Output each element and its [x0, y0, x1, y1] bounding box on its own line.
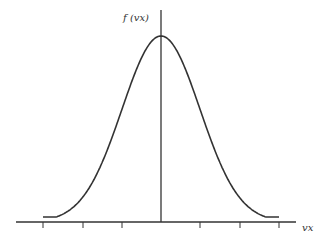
x-axis-label: vx	[302, 222, 313, 233]
plot-area	[0, 0, 329, 242]
y-axis-label: f (vx)	[123, 12, 149, 23]
x-ticks	[43, 222, 279, 228]
gaussian-diagram: f (vx) vx	[0, 0, 329, 242]
